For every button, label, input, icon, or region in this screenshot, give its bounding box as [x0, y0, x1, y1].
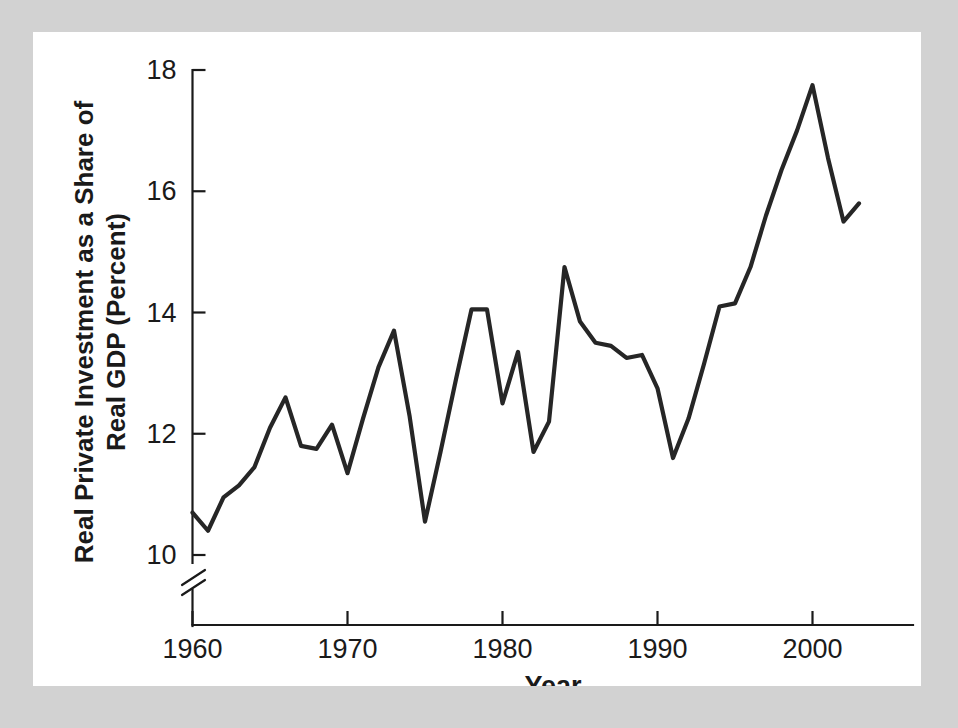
x-tick-label-1970: 1970 — [317, 634, 377, 664]
line-chart: 1012141618 19601970198019902000 Year Rea… — [33, 32, 921, 686]
x-tick-labels: 19601970198019902000 — [162, 634, 842, 664]
y-tick-label-14: 14 — [146, 298, 176, 328]
x-tick-marks — [193, 611, 813, 625]
x-axis-title: Year — [524, 671, 582, 686]
y-axis-title-line1: Real Private Investment as a Share of — [69, 100, 99, 563]
y-tick-label-16: 16 — [146, 176, 176, 206]
y-tick-labels: 1012141618 — [146, 55, 176, 570]
x-tick-label-1960: 1960 — [162, 634, 222, 664]
figure-frame: 1012141618 19601970198019902000 Year Rea… — [0, 0, 958, 728]
y-tick-marks — [193, 70, 206, 555]
y-tick-label-10: 10 — [146, 540, 176, 570]
data-series-line — [193, 85, 860, 531]
x-tick-label-2000: 2000 — [782, 634, 842, 664]
x-tick-label-1980: 1980 — [472, 634, 532, 664]
y-axis-title: Real Private Investment as a Share of Re… — [69, 100, 131, 563]
y-axis-title-line2: Real GDP (Percent) — [101, 213, 131, 451]
y-tick-label-12: 12 — [146, 419, 176, 449]
x-tick-label-1990: 1990 — [627, 634, 687, 664]
figure-panel: 1012141618 19601970198019902000 Year Rea… — [33, 32, 921, 686]
y-tick-label-18: 18 — [146, 55, 176, 85]
